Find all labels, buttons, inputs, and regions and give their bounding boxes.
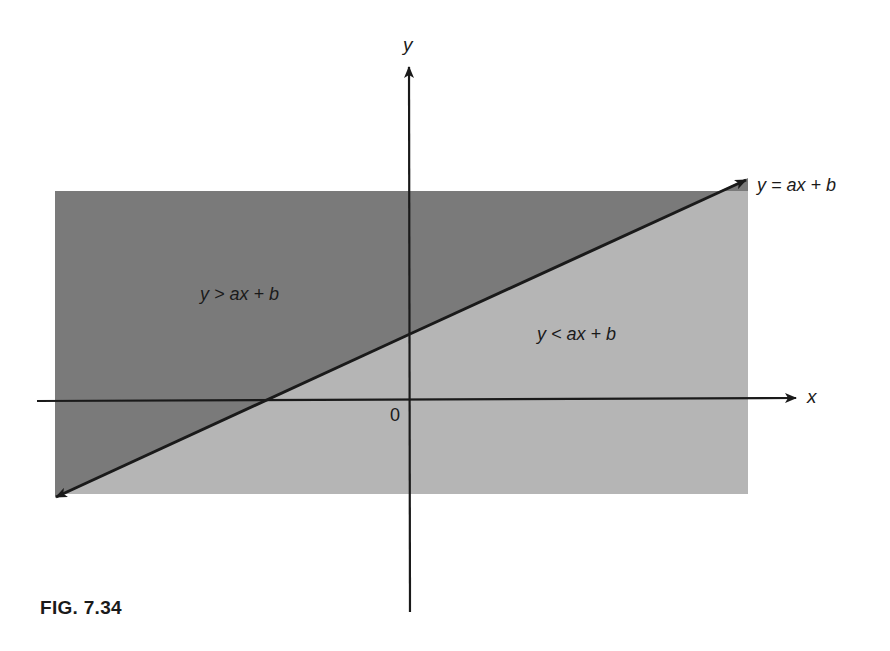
x-axis-label: x xyxy=(806,386,818,407)
region-above-label: y > ax + b xyxy=(198,284,279,304)
origin-label: 0 xyxy=(390,405,400,425)
figure-caption: FIG. 7.34 xyxy=(40,597,122,619)
y-axis-label: y xyxy=(401,34,414,55)
inequality-diagram: y x 0 y = ax + b y > ax + b y < ax + b xyxy=(0,0,890,651)
region-below-label: y < ax + b xyxy=(535,324,616,344)
y-axis xyxy=(409,67,410,612)
line-equation-label: y = ax + b xyxy=(755,175,836,195)
